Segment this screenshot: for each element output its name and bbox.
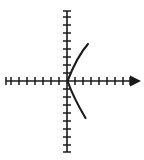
coordinate-plane-figure <box>0 0 144 160</box>
x-axis-right-arrow-icon <box>130 76 141 87</box>
graph-canvas <box>0 0 144 160</box>
